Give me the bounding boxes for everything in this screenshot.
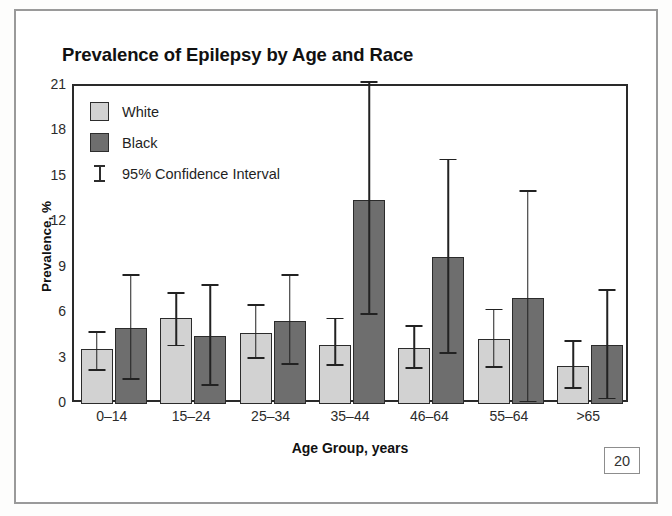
error-bar-white xyxy=(484,309,504,368)
x-axis-tick-label: 15–24 xyxy=(172,408,211,424)
y-axis-tick-label: 18 xyxy=(32,121,66,137)
x-axis-tick-label: 0–14 xyxy=(96,408,127,424)
y-axis-tick-label: 12 xyxy=(32,212,66,228)
y-axis-tick-label: 9 xyxy=(32,258,66,274)
y-axis-tick-label: 15 xyxy=(32,167,66,183)
y-axis-tick-label: 21 xyxy=(32,76,66,92)
plot-area: White Black 95% Confidence Interval xyxy=(72,84,628,402)
y-axis-tick-label: 3 xyxy=(32,349,66,365)
error-bar-white xyxy=(246,304,266,359)
y-axis-tick-label: 0 xyxy=(32,394,66,410)
y-axis-tick-labels: Prevalence, % 036912151821 xyxy=(30,84,66,402)
error-bar-black xyxy=(121,274,141,380)
error-bar-white xyxy=(87,331,107,370)
x-axis-tick-label: 35–44 xyxy=(331,408,370,424)
x-axis-tick-label: 25–34 xyxy=(251,408,290,424)
bars-container xyxy=(74,86,626,400)
error-bar-black xyxy=(359,81,379,314)
x-axis-tick-label: 46–64 xyxy=(410,408,449,424)
error-bar-white xyxy=(563,340,583,388)
error-bar-white xyxy=(166,292,186,347)
chart-title: Prevalence of Epilepsy by Age and Race xyxy=(62,44,413,66)
error-bar-white xyxy=(325,318,345,366)
figure-number-badge: 20 xyxy=(604,447,640,474)
error-bar-black xyxy=(518,190,538,402)
error-bar-black xyxy=(597,289,617,400)
y-axis-tick-label: 6 xyxy=(32,303,66,319)
error-bar-white xyxy=(404,325,424,369)
error-bar-black xyxy=(200,284,220,385)
x-axis-title: Age Group, years xyxy=(72,440,628,456)
error-bar-black xyxy=(438,159,458,354)
x-axis-tick-label: >65 xyxy=(576,408,600,424)
figure-root: Prevalence of Epilepsy by Age and Race P… xyxy=(0,0,672,516)
x-axis-tick-label: 55–64 xyxy=(489,408,528,424)
error-bar-black xyxy=(280,274,300,365)
